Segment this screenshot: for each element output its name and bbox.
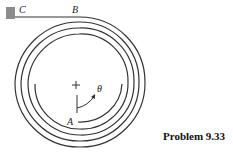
label-theta: θ [97,83,102,94]
spiral-coil [15,17,145,147]
label-b: B [72,4,78,15]
spiral-spring-diagram: C B A θ Problem 9.33 [0,0,233,157]
figure-caption: Problem 9.33 [163,130,226,142]
label-a: A [66,116,74,127]
wall-support [6,7,15,19]
label-c: C [19,4,26,15]
